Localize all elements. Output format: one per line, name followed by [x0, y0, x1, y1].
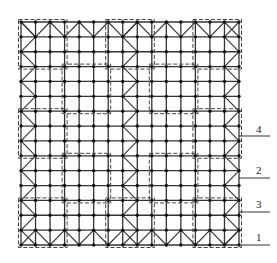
- grid-node: [107, 199, 110, 202]
- diagonal-member: [123, 156, 138, 171]
- grid-node: [121, 20, 124, 23]
- grid-node: [194, 50, 197, 53]
- grid-node: [48, 65, 51, 68]
- diagonal-member: [21, 126, 36, 141]
- grid-node: [136, 214, 139, 217]
- diagonal-member: [50, 22, 65, 37]
- grid-node: [34, 243, 37, 246]
- grid-node: [150, 184, 153, 187]
- grid-node: [92, 199, 95, 202]
- diagonal-member: [224, 230, 239, 245]
- grid-node: [165, 95, 168, 98]
- grid-node: [121, 139, 124, 142]
- grid-node: [223, 169, 226, 172]
- diagonal-member: [79, 230, 94, 245]
- grid-node: [150, 50, 153, 53]
- grid-node: [179, 199, 182, 202]
- grid-node: [121, 124, 124, 127]
- grid-node: [150, 154, 153, 157]
- grid-node: [92, 169, 95, 172]
- grid-node: [194, 199, 197, 202]
- grid-node: [237, 124, 240, 127]
- grid-node: [34, 95, 37, 98]
- grid-node: [34, 124, 37, 127]
- grid-node: [34, 50, 37, 53]
- label-1: 1: [256, 231, 262, 243]
- diagonal-member: [36, 22, 51, 37]
- diagonal-member: [195, 230, 210, 245]
- grid-node: [92, 243, 95, 246]
- grid-node: [179, 95, 182, 98]
- grid-node: [237, 65, 240, 68]
- grid-node: [92, 50, 95, 53]
- grid-node: [34, 20, 37, 23]
- grid-node: [48, 243, 51, 246]
- grid-node: [48, 110, 51, 113]
- grid-node: [136, 110, 139, 113]
- grid-node: [107, 124, 110, 127]
- grid-node: [136, 95, 139, 98]
- grid-node: [208, 169, 211, 172]
- diagonal-member: [21, 200, 36, 215]
- grid-node: [179, 65, 182, 68]
- grid-node: [223, 95, 226, 98]
- grid-node: [179, 184, 182, 187]
- grid-node: [165, 228, 168, 231]
- grid-node: [77, 243, 80, 246]
- grid-node: [165, 214, 168, 217]
- diagonal-member: [21, 141, 36, 156]
- grid-node: [107, 20, 110, 23]
- grid-node: [179, 50, 182, 53]
- diagonal-member: [21, 156, 36, 171]
- diagonal-member: [137, 230, 152, 245]
- grid-node: [223, 80, 226, 83]
- dashed-block-outline: [149, 153, 198, 203]
- grid-node: [150, 228, 153, 231]
- grid-node: [121, 184, 124, 187]
- grid-node: [19, 154, 22, 157]
- grid-node: [34, 228, 37, 231]
- diagonal-member: [21, 67, 36, 82]
- grid-node: [107, 139, 110, 142]
- diagonal-member: [166, 230, 181, 245]
- grid-node: [150, 20, 153, 23]
- grid-node: [194, 228, 197, 231]
- grid-node: [77, 65, 80, 68]
- grid-node: [19, 35, 22, 38]
- grid-node: [77, 214, 80, 217]
- grid-node: [48, 169, 51, 172]
- grid-node: [179, 169, 182, 172]
- diagonal-member: [210, 22, 225, 37]
- grid-node: [107, 184, 110, 187]
- grid-node: [92, 124, 95, 127]
- grid-node: [194, 243, 197, 246]
- grid-node: [48, 184, 51, 187]
- dashed-block-outline: [62, 64, 111, 114]
- grid-node: [165, 80, 168, 83]
- grid-node: [179, 124, 182, 127]
- grid-node: [77, 184, 80, 187]
- grid-node: [107, 169, 110, 172]
- grid-node: [19, 139, 22, 142]
- grid-node: [223, 20, 226, 23]
- diagonal-member: [123, 171, 138, 186]
- grid-node: [121, 199, 124, 202]
- diagonal-member: [195, 22, 210, 37]
- grid-node: [48, 35, 51, 38]
- grid-node: [194, 169, 197, 172]
- grid-node: [150, 95, 153, 98]
- grid-node: [194, 65, 197, 68]
- grid-node: [77, 228, 80, 231]
- diagonal-member: [123, 96, 138, 111]
- grid-node: [77, 50, 80, 53]
- diagonal-member: [21, 22, 36, 37]
- grid-node: [179, 110, 182, 113]
- grid-node: [92, 139, 95, 142]
- diagonal-member: [224, 200, 239, 215]
- grid-node: [208, 228, 211, 231]
- diagonal-member: [21, 215, 36, 230]
- grid-node: [179, 20, 182, 23]
- grid-node: [19, 243, 22, 246]
- grid-node: [107, 50, 110, 53]
- diagonal-member: [224, 37, 239, 52]
